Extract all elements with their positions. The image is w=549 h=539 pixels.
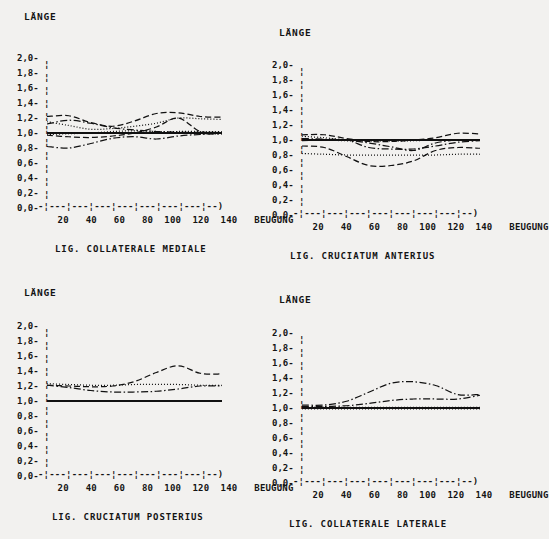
data-series-line	[302, 146, 480, 166]
y-tick-label: 1,2-	[17, 382, 39, 391]
y-tick-label: 0,0-	[17, 472, 39, 481]
y-tick-label: 1,4-	[272, 374, 294, 383]
plot-curves	[47, 326, 222, 476]
y-tick-label: 1,0-	[17, 129, 39, 138]
y-tick-label: 0,2-	[272, 464, 294, 473]
y-tick-label: 0,8-	[17, 144, 39, 153]
y-axis-title: LÄNGE	[24, 287, 57, 298]
x-tick-labels: 20 40 60 80 100 120 140 BEUGUNG	[307, 490, 549, 500]
y-tick-label: 0,6-	[17, 159, 39, 168]
panel-lig-collaterale-mediale: LÄNGE ¦ ¦ ¦ ¦ ¦ ¦ ¦ ¦ ¦ ¦ ¦ -¦---¦---¦--…	[0, 0, 265, 270]
y-tick-label: 0,2-	[272, 196, 294, 205]
data-series-line	[302, 395, 480, 406]
y-tick-label: 2,0-	[17, 322, 39, 331]
data-series-line	[47, 112, 222, 126]
panel-lig-collaterale-laterale: LÄNGE ¦ ¦ ¦ ¦ ¦ ¦ ¦ ¦ ¦ ¦ ¦ -¦---¦---¦--…	[265, 270, 531, 539]
x-axis-line: -¦---¦---¦---¦---¦---¦---¦---¦--)	[38, 201, 223, 211]
y-tick-label: 0,6-	[272, 166, 294, 175]
panel-caption: LIG. CRUCIATUM ANTERIUS	[290, 251, 435, 261]
y-tick-label: 1,4-	[17, 367, 39, 376]
data-series-line	[47, 366, 222, 387]
plot-curves	[302, 333, 480, 483]
data-series-line	[302, 154, 480, 156]
y-tick-label: 1,6-	[17, 84, 39, 93]
data-series-line	[47, 384, 222, 386]
y-tick-label: 1,4-	[17, 99, 39, 108]
y-tick-label: 0,8-	[272, 151, 294, 160]
y-tick-label: 0,4-	[272, 181, 294, 190]
y-axis-title: LÄNGE	[24, 11, 57, 22]
y-tick-label: 0,2-	[17, 189, 39, 198]
x-axis-line: -¦---¦---¦---¦---¦---¦---¦---¦--)	[293, 208, 478, 218]
x-tick-labels: 20 40 60 80 100 120 140 BEUGUNG	[52, 483, 294, 493]
y-tick-label: 0,2-	[17, 457, 39, 466]
y-tick-label: 0,4-	[17, 174, 39, 183]
plot-curves	[47, 58, 222, 208]
y-tick-label: 2,0-	[272, 329, 294, 338]
y-tick-label: 1,6-	[272, 359, 294, 368]
panel-lig-cruciatum-posterius: LÄNGE ¦ ¦ ¦ ¦ ¦ ¦ ¦ ¦ ¦ ¦ ¦ -¦---¦---¦--…	[0, 270, 265, 539]
panel-caption: LIG. COLLATERALE MEDIALE	[55, 244, 207, 254]
y-tick-label: 1,0-	[272, 404, 294, 413]
y-tick-label: 1,2-	[17, 114, 39, 123]
panel-caption: LIG. CRUCIATUM POSTERIUS	[52, 512, 204, 522]
x-tick-labels: 20 40 60 80 100 120 140 BEUGUNG	[307, 222, 549, 232]
y-tick-label: 1,2-	[272, 121, 294, 130]
y-tick-label: 1,0-	[272, 136, 294, 145]
data-series-line	[47, 134, 222, 148]
panel-lig-cruciatum-anterius: LÄNGE ¦ ¦ ¦ ¦ ¦ ¦ ¦ ¦ ¦ ¦ ¦ -¦---¦---¦--…	[265, 0, 531, 270]
y-tick-label: 1,8-	[272, 344, 294, 353]
y-tick-label: 1,8-	[272, 76, 294, 85]
plot-curves	[302, 65, 480, 215]
data-series-line	[47, 385, 222, 392]
y-tick-label: 1,0-	[17, 397, 39, 406]
y-tick-label: 0,6-	[272, 434, 294, 443]
data-series-line	[302, 382, 480, 406]
y-tick-label: 0,6-	[17, 427, 39, 436]
x-tick-labels: 20 40 60 80 100 120 140 BEUGUNG	[52, 215, 294, 225]
y-tick-label: 0,8-	[17, 412, 39, 421]
y-tick-label: 1,2-	[272, 389, 294, 398]
y-tick-label: 1,6-	[17, 352, 39, 361]
y-tick-label: 1,4-	[272, 106, 294, 115]
panel-caption: LIG. COLLATERALE LATERALE	[289, 519, 447, 529]
y-tick-label: 1,8-	[17, 337, 39, 346]
y-tick-label: 1,6-	[272, 91, 294, 100]
y-tick-label: 0,8-	[272, 419, 294, 428]
y-tick-label: 0,0-	[17, 204, 39, 213]
y-tick-label: 2,0-	[272, 61, 294, 70]
x-axis-line: -¦---¦---¦---¦---¦---¦---¦---¦--)	[38, 469, 223, 479]
y-axis-title: LÄNGE	[279, 294, 312, 305]
y-tick-label: 1,8-	[17, 69, 39, 78]
data-series-line	[47, 118, 222, 130]
y-tick-label: 0,4-	[272, 449, 294, 458]
y-axis-title: LÄNGE	[279, 27, 312, 38]
y-tick-label: 0,0-	[272, 479, 294, 488]
y-tick-label: 2,0-	[17, 54, 39, 63]
y-tick-label: 0,4-	[17, 442, 39, 451]
x-axis-line: -¦---¦---¦---¦---¦---¦---¦---¦--)	[293, 476, 478, 486]
y-tick-label: 0,0-	[272, 211, 294, 220]
